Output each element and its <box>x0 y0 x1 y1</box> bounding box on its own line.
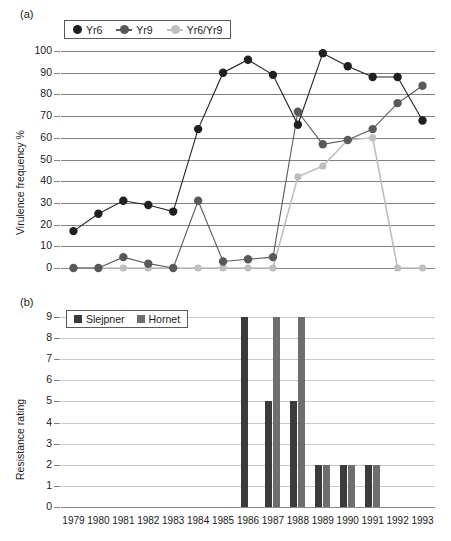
bar-slejpner-1990 <box>340 465 347 507</box>
legend-line-icon <box>116 29 132 31</box>
data-point <box>294 173 301 180</box>
data-point <box>369 134 376 141</box>
data-point <box>194 125 202 133</box>
y-tick-mark <box>54 359 60 360</box>
y-tick-mark <box>54 225 60 226</box>
y-tick-label: 5 <box>18 395 52 406</box>
y-tick-mark <box>54 444 60 445</box>
y-tick-mark <box>54 116 60 117</box>
panel-a-plot-area <box>61 51 435 268</box>
bar-slejpner-1988 <box>290 401 297 507</box>
y-tick-label: 6 <box>18 374 52 385</box>
data-point <box>319 140 327 148</box>
data-point <box>244 255 252 263</box>
bar-slejpner-1987 <box>265 401 272 507</box>
panel-a-legend: Yr6Yr9Yr6/Yr9 <box>64 20 231 39</box>
y-tick-label: 8 <box>18 332 52 343</box>
y-tick-mark <box>54 423 60 424</box>
y-tick-mark <box>54 181 60 182</box>
data-point <box>119 253 127 261</box>
data-point <box>294 108 302 116</box>
data-point <box>269 71 277 79</box>
data-point <box>344 136 352 144</box>
data-point <box>418 82 426 90</box>
panel-b-plot-area <box>61 317 435 507</box>
legend-marker-icon <box>120 25 129 34</box>
y-tick-label: 0 <box>18 262 52 273</box>
panel-a-virulence-frequency: (a) Virulence frequency % 01020304050607… <box>0 0 451 290</box>
legend-swatch-icon <box>137 315 145 323</box>
y-tick-label: 0 <box>18 501 52 512</box>
y-tick-label: 60 <box>18 132 52 143</box>
bar-hornet-1990 <box>348 465 355 507</box>
panel-a-series-layer <box>61 51 435 268</box>
y-tick-mark <box>54 338 60 339</box>
legend-marker-icon <box>73 25 82 34</box>
data-point <box>144 201 152 209</box>
data-point <box>368 125 376 133</box>
legend-item-yr9: Yr9 <box>116 24 152 36</box>
data-point <box>219 69 227 77</box>
y-tick-label: 20 <box>18 219 52 230</box>
y-tick-mark <box>54 486 60 487</box>
y-tick-mark <box>54 401 60 402</box>
data-point <box>393 99 401 107</box>
legend-item-yr6-yr9: Yr6/Yr9 <box>167 24 223 36</box>
y-tick-mark <box>54 465 60 466</box>
data-point <box>69 264 77 272</box>
y-tick-label: 40 <box>18 175 52 186</box>
panel-b-legend: SlejpnerHornet <box>66 310 188 328</box>
data-point <box>120 264 127 271</box>
legend-swatch-icon <box>74 315 82 323</box>
data-point <box>419 264 426 271</box>
y-tick-mark <box>54 94 60 95</box>
data-point <box>169 207 177 215</box>
data-point <box>195 264 202 271</box>
data-point <box>119 197 127 205</box>
y-tick-label: 4 <box>18 417 52 428</box>
legend-label: Yr9 <box>136 24 152 36</box>
series-line-yr9 <box>73 86 422 268</box>
data-point <box>319 162 326 169</box>
x-tick-label-1993: 1993 <box>407 515 439 526</box>
data-point <box>69 227 77 235</box>
y-tick-label: 7 <box>18 353 52 364</box>
y-tick-mark <box>54 246 60 247</box>
data-point <box>344 62 352 70</box>
bar-slejpner-1986 <box>241 317 248 507</box>
y-tick-mark <box>54 380 60 381</box>
data-point <box>144 259 152 267</box>
y-tick-label: 3 <box>18 438 52 449</box>
y-tick-label: 10 <box>18 240 52 251</box>
y-tick-mark <box>54 317 60 318</box>
y-tick-label: 50 <box>18 154 52 165</box>
gridline <box>61 359 435 360</box>
data-point <box>269 253 277 261</box>
bar-hornet-1988 <box>298 317 305 507</box>
panel-b-label: (b) <box>20 296 33 308</box>
y-tick-label: 100 <box>18 45 52 56</box>
bar-hornet-1987 <box>273 317 280 507</box>
data-point <box>169 264 177 272</box>
y-tick-mark <box>54 51 60 52</box>
legend-item-hornet: Hornet <box>137 313 181 325</box>
gridline <box>61 444 435 445</box>
legend-label: Yr6 <box>86 24 102 36</box>
legend-label: Slejpner <box>86 313 125 325</box>
data-point <box>393 73 401 81</box>
data-point <box>269 264 276 271</box>
data-point <box>194 197 202 205</box>
bar-hornet-1991 <box>373 465 380 507</box>
y-tick-mark <box>54 73 60 74</box>
data-point <box>244 264 251 271</box>
gridline <box>61 380 435 381</box>
y-tick-label: 2 <box>18 459 52 470</box>
y-tick-mark <box>54 507 60 508</box>
y-tick-label: 80 <box>18 88 52 99</box>
data-point <box>319 49 327 57</box>
y-tick-label: 70 <box>18 110 52 121</box>
y-tick-label: 30 <box>18 197 52 208</box>
legend-item-slejpner: Slejpner <box>74 313 125 325</box>
y-tick-mark <box>54 160 60 161</box>
bar-hornet-1989 <box>323 465 330 507</box>
